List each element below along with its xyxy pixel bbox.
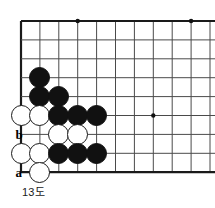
go-diagram: ba 13도 bbox=[0, 0, 215, 208]
star-point-right-middle-icon bbox=[151, 113, 155, 117]
black-stone[interactable] bbox=[86, 105, 107, 126]
white-stone[interactable] bbox=[11, 105, 32, 126]
white-stone[interactable] bbox=[67, 124, 88, 145]
black-stone[interactable] bbox=[67, 143, 88, 164]
point-label-a[interactable]: a bbox=[16, 166, 23, 179]
diagram-caption: 13도 bbox=[22, 186, 45, 199]
black-stone[interactable] bbox=[48, 143, 69, 164]
point-label-b[interactable]: b bbox=[16, 128, 23, 141]
star-point-top-right-icon bbox=[189, 19, 193, 23]
white-stone[interactable] bbox=[11, 143, 32, 164]
star-point-top-left-icon bbox=[76, 19, 80, 23]
black-stone[interactable] bbox=[86, 143, 107, 164]
white-stone[interactable] bbox=[29, 162, 50, 183]
go-board[interactable]: ba bbox=[0, 0, 215, 185]
